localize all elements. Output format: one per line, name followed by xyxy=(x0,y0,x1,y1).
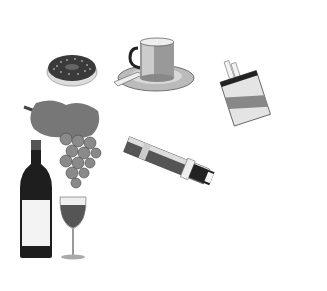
coffee-cup-icon xyxy=(108,34,196,94)
donut-icon xyxy=(45,48,99,88)
chocolate-bar-icon xyxy=(120,136,220,194)
cigarette-pack-icon xyxy=(216,55,274,127)
wine-glass-icon xyxy=(58,193,88,261)
wine-bottle-icon xyxy=(18,140,54,260)
